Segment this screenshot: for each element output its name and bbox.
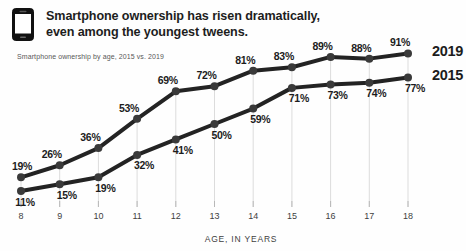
- point-label-2019: 83%: [274, 50, 295, 62]
- x-tick-label: 12: [171, 211, 181, 221]
- data-point-2019: [56, 161, 64, 169]
- point-label-2019: 69%: [158, 74, 179, 86]
- point-label-2019: 19%: [12, 160, 33, 172]
- data-point-2015: [365, 79, 373, 87]
- point-label-2019: 36%: [80, 131, 101, 143]
- x-tick-label: 11: [132, 211, 141, 221]
- data-point-2015: [288, 84, 296, 92]
- x-tick-label: 16: [326, 211, 336, 221]
- data-point-2019: [17, 173, 25, 181]
- point-label-2015: 59%: [250, 113, 271, 125]
- point-label-2015: 41%: [173, 144, 194, 156]
- point-label-2019: 88%: [351, 42, 372, 54]
- x-tick-label: 18: [403, 211, 413, 221]
- data-point-2015: [172, 135, 180, 143]
- x-tick-label: 17: [364, 211, 374, 221]
- point-label-2015: 15%: [57, 189, 78, 201]
- point-label-2015: 32%: [134, 159, 155, 171]
- data-point-2019: [288, 63, 296, 71]
- data-point-2015: [327, 80, 335, 88]
- infographic: Smartphone ownership has risen dramatica…: [0, 0, 466, 251]
- point-label-2019: 91%: [390, 36, 411, 48]
- data-point-2015: [211, 120, 219, 128]
- data-point-2015: [94, 173, 102, 181]
- point-label-2015: 11%: [15, 196, 35, 208]
- data-point-2015: [249, 105, 257, 113]
- point-label-2015: 19%: [95, 182, 116, 194]
- data-point-2019: [249, 67, 257, 75]
- x-tick-label: 10: [93, 211, 103, 221]
- point-label-2015: 73%: [328, 89, 349, 101]
- point-label-2019: 81%: [235, 54, 256, 66]
- x-axis-title: AGE, IN YEARS: [205, 234, 278, 244]
- data-point-2015: [56, 180, 64, 188]
- chart-canvas: 89101112131415161718AGE, IN YEARS19%26%3…: [0, 0, 466, 251]
- data-point-2015: [404, 74, 412, 82]
- data-point-2019: [327, 53, 335, 61]
- point-label-2015: 77%: [405, 82, 426, 94]
- data-point-2019: [404, 49, 412, 57]
- data-point-2015: [17, 187, 25, 195]
- point-label-2019: 26%: [42, 148, 63, 160]
- x-tick-label: 15: [287, 211, 297, 221]
- point-label-2015: 74%: [366, 87, 387, 99]
- data-point-2019: [365, 55, 373, 63]
- point-label-2015: 71%: [289, 92, 310, 104]
- point-label-2019: 72%: [196, 69, 217, 81]
- data-point-2019: [211, 82, 219, 90]
- data-point-2019: [172, 87, 180, 95]
- point-label-2015: 50%: [211, 129, 232, 141]
- point-label-2019: 53%: [119, 102, 140, 114]
- data-point-2015: [133, 151, 141, 159]
- data-point-2019: [94, 144, 102, 152]
- data-point-2019: [133, 115, 141, 123]
- x-tick-label: 9: [57, 211, 62, 221]
- x-tick-label: 8: [18, 211, 23, 221]
- x-tick-label: 14: [248, 211, 258, 221]
- point-label-2019: 89%: [313, 40, 334, 52]
- x-tick-label: 13: [209, 211, 219, 221]
